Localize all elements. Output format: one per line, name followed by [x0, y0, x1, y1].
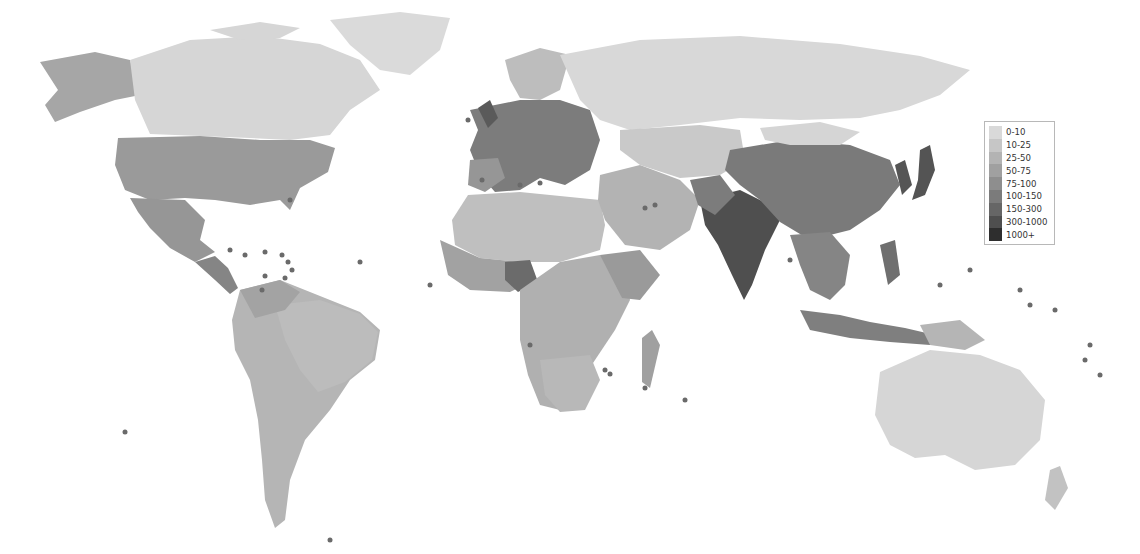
region-north-africa[interactable]: [452, 192, 605, 262]
legend-item: 10-25: [989, 139, 1051, 152]
legend-item: 100-150: [989, 190, 1051, 203]
legend-label: 100-150: [1006, 190, 1042, 202]
region-canada-islands[interactable]: [210, 22, 300, 40]
region-japan[interactable]: [912, 145, 935, 200]
legend-item: 300-1000: [989, 216, 1051, 229]
legend-label: 75-100: [1006, 178, 1036, 190]
legend-swatch: [989, 190, 1002, 203]
region-scandinavia[interactable]: [505, 48, 570, 100]
legend-swatch: [989, 126, 1002, 139]
map-canvas: [0, 0, 1140, 554]
map-legend: 0-10 10-25 25-50 50-75 75-100 100-150 15…: [984, 121, 1055, 245]
legend-label: 150-300: [1006, 203, 1042, 215]
legend-item: 0-10: [989, 126, 1051, 139]
region-mongolia[interactable]: [760, 122, 860, 145]
legend-label: 50-75: [1006, 165, 1031, 177]
region-australia[interactable]: [875, 350, 1045, 470]
region-alaska[interactable]: [40, 52, 140, 122]
legend-item: 25-50: [989, 152, 1051, 165]
legend-item: 1000+: [989, 228, 1051, 241]
legend-label: 10-25: [1006, 139, 1031, 151]
region-russia[interactable]: [560, 36, 970, 130]
legend-swatch: [989, 152, 1002, 165]
region-korea[interactable]: [895, 160, 912, 195]
legend-swatch: [989, 203, 1002, 216]
region-indonesia[interactable]: [800, 310, 935, 345]
region-new-zealand[interactable]: [1045, 466, 1068, 510]
region-central-america[interactable]: [195, 256, 238, 294]
region-madagascar[interactable]: [642, 330, 660, 388]
legend-item: 75-100: [989, 177, 1051, 190]
world-map: [0, 0, 1140, 554]
legend-swatch: [989, 164, 1002, 177]
region-canada[interactable]: [130, 36, 380, 140]
region-philippines[interactable]: [880, 240, 900, 285]
legend-label: 0-10: [1006, 126, 1026, 138]
legend-label: 25-50: [1006, 152, 1031, 164]
region-papua[interactable]: [920, 320, 985, 350]
region-middle-east[interactable]: [598, 165, 700, 250]
legend-swatch: [989, 139, 1002, 152]
legend-label: 300-1000: [1006, 216, 1047, 228]
region-mexico[interactable]: [130, 198, 215, 262]
legend-swatch: [989, 216, 1002, 229]
legend-label: 1000+: [1006, 229, 1035, 241]
legend-swatch: [989, 177, 1002, 190]
legend-item: 50-75: [989, 164, 1051, 177]
region-southeast-asia[interactable]: [790, 232, 850, 300]
legend-swatch: [989, 228, 1002, 241]
legend-item: 150-300: [989, 203, 1051, 216]
